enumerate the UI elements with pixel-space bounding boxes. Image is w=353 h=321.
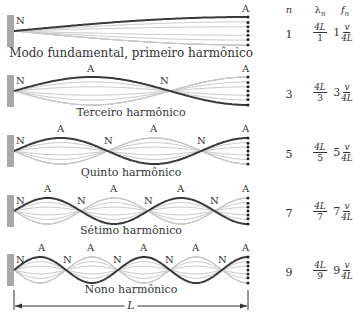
harmonic-number: 3 — [286, 88, 293, 101]
end-dot — [247, 85, 250, 88]
wall-icon — [7, 15, 14, 47]
end-dot — [247, 269, 250, 272]
antinode-label: A — [110, 184, 117, 194]
end-dot — [247, 157, 250, 160]
node-label: N — [16, 76, 25, 86]
end-dot — [247, 256, 250, 259]
node-label: N — [16, 136, 25, 146]
frequency-expression: 9v4L — [333, 260, 353, 281]
frequency-expression: 7v4L — [333, 201, 353, 222]
end-dot — [247, 153, 250, 156]
frequency-expression: 5v4L — [333, 142, 353, 163]
wave-row-5 — [7, 135, 250, 167]
caption-5: Quinto harmônico — [81, 167, 182, 179]
end-dot — [247, 98, 250, 101]
end-dot — [247, 276, 250, 279]
wavelength-fraction: 4L3 — [313, 82, 327, 103]
node-label: N — [218, 255, 227, 265]
end-dot — [247, 137, 250, 140]
wall-icon — [7, 195, 14, 227]
node-label: N — [16, 16, 25, 26]
end-dot — [247, 163, 250, 166]
header-lambda: λn — [315, 4, 326, 18]
arrow-left-icon — [15, 304, 22, 309]
end-dot — [247, 104, 250, 107]
node-label: N — [63, 255, 72, 265]
wavelength-fraction: 4L7 — [313, 201, 327, 222]
frequency-expression: 3v4L — [333, 82, 353, 103]
wavelength-fraction: 4L1 — [313, 22, 327, 43]
node-label: N — [113, 255, 122, 265]
wavelength-fraction: 4L5 — [313, 142, 327, 163]
antinode-label: A — [87, 64, 94, 74]
node-label: N — [16, 255, 25, 265]
end-dot — [247, 265, 250, 268]
lambda-sub: n — [321, 10, 326, 18]
end-dot — [247, 217, 250, 220]
end-dot — [247, 90, 250, 93]
caption-3: Terceiro harmônico — [76, 107, 185, 119]
node-label: N — [160, 76, 169, 86]
wall-icon — [7, 75, 14, 107]
end-dot — [247, 213, 250, 216]
wall-icon — [7, 135, 14, 167]
end-dot — [247, 223, 250, 226]
node-label: N — [165, 255, 174, 265]
end-dot — [247, 76, 250, 79]
harmonic-number: 5 — [286, 148, 293, 161]
harmonic-number: 7 — [286, 207, 293, 220]
end-dot — [247, 197, 250, 200]
end-dot — [247, 16, 250, 19]
end-dot — [247, 150, 250, 153]
antinode-label: A — [44, 184, 51, 194]
antinode-label: A — [150, 124, 157, 134]
antinode-label: A — [242, 4, 249, 14]
antinode-label: A — [242, 124, 249, 134]
end-dot — [247, 25, 250, 28]
header-f: fn — [341, 4, 349, 18]
node-label: N — [16, 196, 25, 206]
end-dot — [247, 38, 250, 41]
wave-row-3 — [7, 75, 250, 107]
wavelength-fraction: 4L9 — [313, 260, 327, 281]
length-label: L — [124, 300, 137, 312]
antinode-label: A — [140, 243, 147, 253]
header-n: n — [286, 4, 292, 15]
end-dot — [247, 34, 250, 37]
wave-row-9 — [7, 254, 250, 286]
antinode-label: A — [242, 64, 249, 74]
node-label: N — [210, 196, 219, 206]
end-dot — [247, 81, 250, 84]
antinode-label: A — [38, 243, 45, 253]
f-sub: n — [345, 10, 350, 18]
caption-9: Nono harmônico — [85, 284, 178, 296]
caption-1: Modo fundamental, primeiro harmônico — [9, 47, 253, 59]
wall-icon — [7, 254, 14, 286]
antinode-label: A — [57, 124, 64, 134]
harmonic-number: 9 — [286, 266, 293, 279]
end-dot — [247, 202, 250, 205]
end-dot — [247, 142, 250, 145]
antinode-label: A — [177, 184, 184, 194]
node-label: N — [77, 196, 86, 206]
end-dot — [247, 30, 250, 33]
node-label: N — [144, 196, 153, 206]
antinode-label: A — [242, 243, 249, 253]
frequency-expression: 1v4L — [333, 22, 353, 43]
end-dot — [247, 210, 250, 213]
arrow-right-icon — [240, 304, 247, 309]
harmonic-number: 1 — [286, 28, 293, 41]
end-dot — [247, 272, 250, 275]
end-dot — [247, 206, 250, 209]
end-dot — [247, 261, 250, 264]
antinode-label: A — [192, 243, 199, 253]
end-dot — [247, 282, 250, 285]
node-label: N — [197, 136, 206, 146]
end-dot — [247, 146, 250, 149]
antinode-label: A — [242, 184, 249, 194]
node-label: N — [104, 136, 113, 146]
wave-row-1 — [7, 15, 250, 47]
end-dot — [247, 21, 250, 24]
end-dot — [247, 94, 250, 97]
caption-7: Sétimo harmônico — [80, 225, 182, 237]
